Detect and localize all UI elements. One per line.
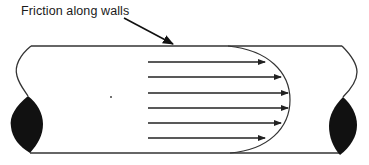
left-seal-icon	[11, 96, 43, 153]
pointer-arrow	[124, 18, 173, 44]
center-dot	[110, 96, 112, 98]
pipe-left-end-curve	[16, 46, 31, 96]
pipe-flow-diagram: Friction along walls	[0, 0, 369, 165]
velocity-arrows	[148, 62, 288, 138]
right-seal-icon	[329, 97, 357, 155]
diagram-graphic	[0, 0, 369, 165]
pipe-right-end-curve	[342, 46, 357, 97]
